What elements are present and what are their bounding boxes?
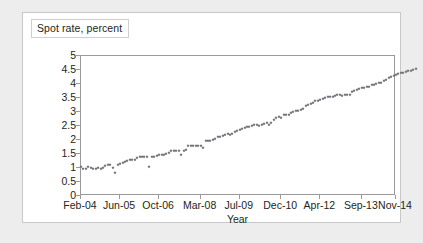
y-tick-mark (76, 83, 80, 84)
data-point (179, 153, 182, 156)
chart-title: Spot rate, percent (31, 19, 129, 38)
y-tick-label: 1.5 (61, 148, 76, 158)
y-tick-mark (76, 153, 80, 154)
x-tick-label: Jul-09 (224, 199, 253, 211)
y-tick-mark (76, 111, 80, 112)
x-tick-mark (280, 195, 281, 199)
x-tick-mark (361, 195, 362, 199)
x-tick-label: Apr-12 (304, 199, 336, 211)
x-tick-mark (119, 195, 120, 199)
y-tick-mark (76, 167, 80, 168)
y-axis-tick-labels: 54.543.532.521.510.50 (45, 55, 76, 195)
screenshot-root: Spot rate, percent 54.543.532.521.510.50… (0, 0, 423, 243)
data-point (380, 82, 383, 85)
y-tick-mark (76, 55, 80, 56)
x-tick-mark (239, 195, 240, 199)
y-tick-mark (76, 97, 80, 98)
plot-area (80, 55, 395, 195)
x-tick-label: Sep-13 (344, 199, 378, 211)
y-tick-label: 2.5 (61, 120, 76, 130)
x-tick-label: Feb-04 (63, 199, 96, 211)
x-tick-mark (158, 195, 159, 199)
data-point (145, 155, 148, 158)
y-tick-mark (76, 139, 80, 140)
scatter-series (81, 56, 394, 194)
x-axis-tick-labels: Feb-04Jun-05Oct-06Mar-08Jul-09Dec-10Apr-… (23, 199, 423, 213)
x-tick-label: Mar-08 (183, 199, 216, 211)
x-axis-title: Year (80, 213, 395, 225)
data-point (177, 149, 180, 152)
y-tick-label: 3.5 (61, 92, 76, 102)
x-tick-label: Oct-06 (142, 199, 174, 211)
data-point (270, 121, 273, 124)
x-tick-mark (80, 195, 81, 199)
data-point (201, 146, 204, 149)
y-tick-label: 0.5 (61, 176, 76, 186)
data-point (302, 107, 305, 110)
y-tick-label: 4.5 (61, 64, 76, 74)
data-point (148, 165, 151, 168)
x-tick-mark (200, 195, 201, 199)
y-tick-mark (76, 125, 80, 126)
data-point (367, 86, 370, 89)
x-tick-mark (319, 195, 320, 199)
data-point (280, 116, 283, 119)
y-tick-mark (76, 69, 80, 70)
x-tick-label: Nov-14 (378, 199, 412, 211)
chart-figure-panel: Spot rate, percent 54.543.532.521.510.50… (22, 12, 401, 223)
y-tick-mark (76, 181, 80, 182)
x-tick-mark (395, 195, 396, 199)
data-point (113, 171, 116, 174)
data-point (111, 166, 114, 169)
x-tick-label: Jun-05 (103, 199, 135, 211)
data-point (184, 148, 187, 151)
data-point (414, 68, 417, 71)
x-tick-label: Dec-10 (263, 199, 297, 211)
